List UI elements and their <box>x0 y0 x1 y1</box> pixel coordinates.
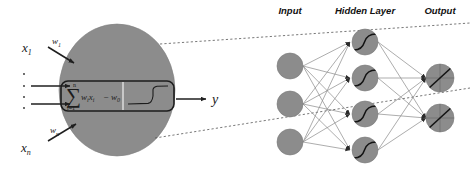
hidden-node <box>352 29 378 55</box>
hidden-node <box>352 65 378 91</box>
hidden-layer-nodes <box>352 29 378 163</box>
input-node <box>277 53 303 79</box>
input-label-x1: x1 <box>21 40 32 57</box>
hidden-node <box>352 101 378 127</box>
figure-canvas: x1 w1 xn wn n ∑ i=1 w <box>0 0 470 178</box>
input-ellipsis <box>23 73 25 109</box>
header-hidden-layer: Hidden Layer <box>335 5 396 16</box>
input-node <box>277 91 303 117</box>
weight-label-w1: w1 <box>52 36 61 48</box>
neural-network-diagram: x1 w1 xn wn n ∑ i=1 w <box>0 0 470 178</box>
network-graph: Input Hidden Layer Output <box>277 5 456 163</box>
svg-text:−: − <box>103 92 109 102</box>
callout-line-top <box>160 23 470 44</box>
hidden-node <box>352 137 378 163</box>
svg-text:i=1: i=1 <box>67 105 75 111</box>
output-node <box>426 104 454 132</box>
svg-text:wixi: wixi <box>81 92 95 103</box>
input-label-xn: xn <box>20 140 31 157</box>
header-input: Input <box>278 5 302 16</box>
edges-input-to-hidden <box>303 42 350 150</box>
edges-hidden-to-output <box>378 42 426 150</box>
input-node <box>277 129 303 155</box>
weight-label-wn: wn <box>50 125 59 137</box>
output-layer-nodes <box>426 64 454 132</box>
input-layer-nodes <box>277 53 303 155</box>
header-output: Output <box>424 5 456 16</box>
output-label-y: y <box>210 92 219 107</box>
magnified-neuron: x1 w1 xn wn n ∑ i=1 w <box>20 24 219 157</box>
output-node <box>426 64 454 92</box>
